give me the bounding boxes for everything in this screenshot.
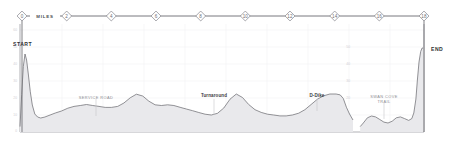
profile-secondary-fill (360, 48, 423, 132)
mile-scale-bar: MILES 0 2 4 6 8 10 12 14 16 18 (17, 11, 429, 21)
svg-text:30: 30 (13, 79, 17, 83)
profile-main-segment (20, 54, 353, 132)
elevation-chart: 60 50 40 30 20 10 0 50 40 30 20 10 0 (0, 0, 456, 144)
svg-text:50: 50 (346, 45, 350, 49)
mile-tick-0: 0 (21, 14, 24, 19)
mile-tick-12: 12 (287, 14, 293, 19)
mile-tick-6: 6 (155, 14, 158, 19)
end-label: END (431, 46, 443, 52)
svg-text:40: 40 (13, 62, 17, 66)
start-label: START (13, 41, 32, 47)
svg-text:40: 40 (346, 62, 350, 66)
mile-tick-16: 16 (377, 14, 383, 19)
svg-text:30: 30 (346, 79, 350, 83)
scale-unit-label: MILES (36, 14, 54, 19)
annotation-swan-cove-trail-line2: TRAIL (377, 99, 391, 104)
svg-text:60: 60 (13, 28, 17, 32)
annotation-turnaround: Turnaround (201, 93, 227, 98)
mile-tick-18: 18 (421, 14, 427, 19)
elevation-profile-figure: 60 50 40 30 20 10 0 50 40 30 20 10 0 (0, 0, 456, 144)
svg-text:20: 20 (346, 96, 350, 100)
annotation-d-dike: D-Dike (310, 93, 325, 98)
profile-main-fill (20, 54, 353, 132)
mile-tick-14: 14 (332, 14, 338, 19)
mile-tick-10: 10 (243, 14, 249, 19)
profile-secondary-segment (360, 48, 423, 132)
mile-tick-2: 2 (65, 14, 68, 19)
svg-text:20: 20 (13, 96, 17, 100)
svg-text:10: 10 (13, 113, 17, 117)
mile-tick-8: 8 (199, 14, 202, 19)
svg-text:0: 0 (15, 129, 17, 133)
mile-tick-4: 4 (110, 14, 113, 19)
annotation-service-road: SERVICE ROAD (79, 95, 113, 100)
